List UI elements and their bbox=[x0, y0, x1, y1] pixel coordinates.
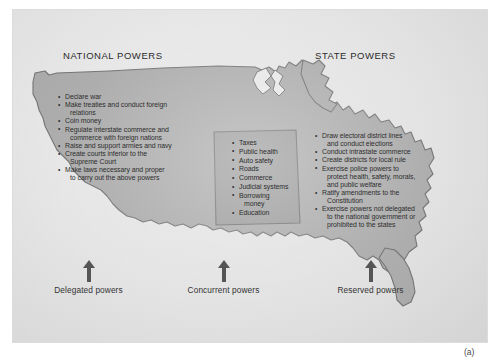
label-reserved-powers: Reserved powers bbox=[337, 285, 403, 295]
list-item: Roads bbox=[232, 165, 294, 174]
list-item: Commerce bbox=[232, 174, 294, 183]
state-powers-list: Draw electoral district linesand conduct… bbox=[315, 132, 475, 229]
list-item: money bbox=[232, 200, 294, 209]
heading-national-powers: NATIONAL POWERS bbox=[63, 50, 163, 61]
list-item: prohibited to the states bbox=[315, 221, 475, 229]
list-item: commerce with foreign nations bbox=[58, 134, 228, 142]
arrow-shaft bbox=[369, 267, 373, 282]
list-item: Raise and support armies and navy bbox=[58, 142, 228, 150]
list-item: Create districts for local rule bbox=[315, 156, 475, 164]
list-item: Coin money bbox=[58, 117, 228, 125]
figure-panel: NATIONAL POWERS STATE POWERS Declare war… bbox=[13, 10, 487, 342]
list-item: Auto safety bbox=[232, 157, 294, 166]
list-item: Create courts inferior to the bbox=[58, 150, 228, 158]
list-item: Make treaties and conduct foreign bbox=[58, 101, 228, 109]
list-item: Conduct intrastate commerce bbox=[315, 148, 475, 156]
label-delegated-powers: Delegated powers bbox=[54, 285, 122, 295]
list-item: and public welfare bbox=[315, 181, 475, 189]
florida-peninsula bbox=[379, 248, 415, 306]
list-item: Regulate interstate commerce and bbox=[58, 126, 228, 134]
list-item: Judicial systems bbox=[232, 183, 294, 192]
arrow-shaft bbox=[87, 267, 91, 282]
list-item: Exercise powers not delegated bbox=[315, 205, 475, 213]
list-item: to carry out the above powers bbox=[58, 174, 228, 182]
list-item: Exercise police powers to bbox=[315, 165, 475, 173]
list-item: Supreme Court bbox=[58, 158, 228, 166]
list-item: Education bbox=[232, 209, 294, 218]
list-item: Draw electoral district lines bbox=[315, 132, 475, 140]
list-item: Taxes bbox=[232, 139, 294, 148]
list-item: relations bbox=[58, 109, 228, 117]
list-item: and conduct elections bbox=[315, 140, 475, 148]
list-item: protect health, safety, morals, bbox=[315, 173, 475, 181]
national-powers-list: Declare warMake treaties and conduct for… bbox=[58, 93, 228, 183]
list-item: Declare war bbox=[58, 93, 228, 101]
gulf-coast-region bbox=[163, 224, 353, 342]
list-item: Constitution bbox=[315, 197, 475, 205]
concurrent-powers-list: TaxesPublic healthAuto safetyRoadsCommer… bbox=[232, 139, 294, 218]
list-item: to the national government or bbox=[315, 213, 475, 221]
heading-state-powers: STATE POWERS bbox=[315, 50, 396, 61]
list-item: Borrowing bbox=[232, 192, 294, 201]
list-item: Public health bbox=[232, 148, 294, 157]
label-concurrent-powers: Concurrent powers bbox=[188, 285, 260, 295]
arrow-shaft bbox=[222, 267, 226, 282]
list-item: Ratify amendments to the bbox=[315, 189, 475, 197]
figure-caption: (a) bbox=[464, 347, 474, 357]
list-item: Make laws necessary and proper bbox=[58, 166, 228, 174]
